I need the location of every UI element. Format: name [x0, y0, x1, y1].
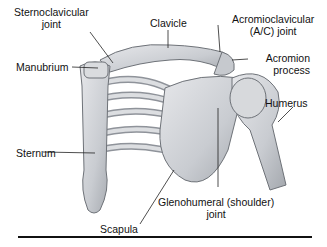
label-line-2: (A/C) joint — [232, 25, 314, 37]
label-line-1: Acromion — [250, 52, 310, 64]
label-acromion-process: Acromion process — [250, 52, 310, 76]
label-line-2: joint — [14, 18, 89, 30]
label-sternum: Sternum — [16, 147, 56, 159]
label-humerus: Humerus — [265, 97, 308, 109]
label-line-2: joint — [158, 208, 274, 220]
label-line-2: process — [250, 64, 310, 76]
label-manubrium: Manubrium — [16, 61, 69, 73]
clavicle-bone — [100, 45, 230, 72]
sternum-bone — [80, 62, 110, 213]
label-clavicle: Clavicle — [150, 17, 187, 29]
label-scapula: Scapula — [100, 223, 138, 235]
label-sternoclavicular-joint: Sternoclavicular joint — [14, 6, 89, 30]
label-line-1: Sternoclavicular — [14, 6, 89, 18]
label-glenohumeral-joint: Glenohumeral (shoulder) joint — [158, 196, 274, 220]
bottom-rule — [18, 236, 312, 238]
label-line-1: Glenohumeral (shoulder) — [158, 196, 274, 208]
label-acromioclavicular-joint: Acromioclavicular (A/C) joint — [232, 13, 314, 37]
label-line-1: Acromioclavicular — [232, 13, 314, 25]
